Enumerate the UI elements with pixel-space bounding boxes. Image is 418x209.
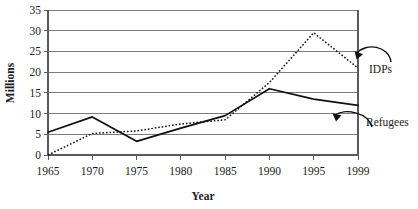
y-tick-label: 5 bbox=[35, 128, 41, 140]
y-tick-label: 35 bbox=[30, 4, 42, 16]
x-axis-title: Year bbox=[192, 190, 215, 202]
y-axis-ticks bbox=[44, 10, 48, 155]
x-tick-label: 1999 bbox=[347, 165, 370, 177]
y-axis-title: Millions bbox=[4, 62, 16, 103]
refugees-arrow-head-icon bbox=[333, 114, 342, 122]
x-tick-label: 1975 bbox=[125, 165, 148, 177]
y-axis-tick-labels: 05101520253035 bbox=[30, 4, 42, 161]
annotation-label-idps: IDPs bbox=[369, 63, 393, 75]
gridlines bbox=[48, 10, 358, 134]
annotation-idps: IDPs bbox=[355, 47, 393, 75]
x-tick-label: 1965 bbox=[37, 165, 60, 177]
x-axis-tick-labels: 19651970197519801985199019951999 bbox=[37, 165, 370, 177]
x-tick-label: 1990 bbox=[258, 165, 281, 177]
annotation-label-refugees: Refugees bbox=[366, 116, 409, 129]
series-line-refugees bbox=[48, 89, 358, 142]
x-axis-ticks bbox=[48, 155, 358, 160]
y-tick-label: 15 bbox=[30, 87, 42, 99]
annotation-refugees: Refugees bbox=[333, 112, 410, 129]
y-tick-label: 20 bbox=[30, 66, 42, 78]
chart-container: 05101520253035 1965197019751980198519901… bbox=[0, 0, 418, 209]
x-tick-label: 1995 bbox=[302, 165, 325, 177]
line-chart: 05101520253035 1965197019751980198519901… bbox=[0, 0, 418, 209]
y-tick-label: 10 bbox=[30, 108, 42, 120]
y-tick-label: 25 bbox=[30, 45, 42, 57]
idps-arrow-head-icon bbox=[355, 51, 364, 60]
x-tick-label: 1985 bbox=[214, 165, 237, 177]
x-tick-label: 1970 bbox=[81, 165, 104, 177]
x-tick-label: 1980 bbox=[169, 165, 192, 177]
y-tick-label: 30 bbox=[30, 25, 42, 37]
y-tick-label: 0 bbox=[35, 149, 41, 161]
